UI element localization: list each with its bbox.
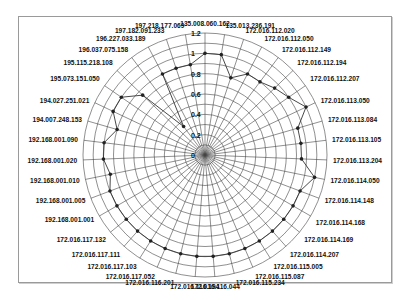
grid-spoke [99,155,205,216]
data-point-marker [109,173,113,177]
grid-spoke [205,155,270,258]
data-point-marker [273,86,277,90]
data-point-marker [220,53,224,57]
category-label: 172.016.117.111 [72,251,121,258]
data-point-marker [296,126,300,130]
radar-chart: 00.20.40.60.811.2 135.008.060.162135.013… [0,0,409,300]
data-point-marker [291,204,295,208]
grid-spoke [157,155,205,267]
radial-tick-label: 1 [191,50,195,57]
radial-tick-label: 1.2 [191,30,201,37]
grid-spoke [205,155,311,216]
data-point-marker [102,157,106,161]
category-label: 172.016.114.207 [290,251,339,258]
data-point-marker [243,247,247,251]
radial-tick-labels: 00.20.40.60.811.2 [191,30,201,159]
category-label: 172.016.112.207 [310,75,359,82]
radial-tick-label: 0.2 [191,132,201,139]
data-point-marker [211,255,215,259]
category-label: 172.016.117.052 [106,273,155,280]
category-label: 192.168.001.005 [36,197,86,204]
category-label: 172.016.114.148 [325,197,374,204]
grid-spoke [95,103,205,155]
data-point-marker [108,189,112,193]
category-label: 172.016.114.168 [316,219,365,226]
data-point-marker [115,128,119,132]
data-point-marker [258,80,262,84]
polar-grid [83,33,327,277]
category-label: 192.168.001.001 [45,216,95,223]
category-label: 172.016.112.050 [264,35,313,42]
data-point-marker [313,176,317,180]
data-point-marker [203,52,207,56]
category-label: 196.227.033.189 [96,35,146,42]
data-point-marker [161,72,165,76]
data-point-marker [299,142,303,146]
radial-tick-label: 0 [191,152,195,159]
data-point-marker [111,110,115,114]
data-point-marker [195,255,199,259]
grid-spoke [140,155,205,258]
category-label: 172.016.116.194 [170,283,219,290]
grid-spoke [205,155,253,267]
data-point-marker [189,63,193,67]
data-point-marker [115,204,119,208]
data-point-marker [179,252,183,256]
grid-spoke [205,155,286,246]
data-point-marker [258,239,262,243]
category-label: 172.016.117.132 [57,236,106,243]
category-label: 196.037.075.158 [79,46,129,53]
data-point-marker [163,247,167,251]
category-label: 172.016.112.194 [297,59,346,66]
category-label: 172.016.113.204 [333,157,382,164]
category-label: 172.016.115.234 [236,279,285,286]
data-point-marker [124,217,128,221]
data-point-marker [271,229,275,233]
category-label: 172.016.113.084 [328,116,377,123]
data-point-marker [149,239,153,243]
grid-spoke [205,39,244,155]
radial-tick-label: 0.6 [191,91,201,98]
data-point-marker [282,217,286,221]
category-label: 192.168.001.090 [28,136,78,143]
data-point-marker [304,105,308,109]
category-label: 194.027.251.021 [40,97,90,104]
grid-spoke [124,155,205,246]
radial-tick-label: 0.4 [191,111,201,118]
data-point-marker [141,93,145,97]
category-label: 172.016.112.020 [246,27,295,34]
data-point-marker [136,229,140,233]
data-point-marker [246,72,250,76]
category-label: 197.218.177.069 [135,22,185,29]
category-label: 192.168.001.010 [30,177,80,184]
grid-spoke [205,57,278,155]
category-label: 192.168.001.020 [28,157,78,164]
category-label: 172.016.117.103 [87,263,136,270]
data-point-marker [229,76,233,80]
category-label: 172.016.114.169 [304,236,353,243]
category-label: 172.016.113.050 [321,97,370,104]
data-point-marker [298,189,302,193]
category-label: 195.115.218.108 [64,59,113,66]
category-label: 172.016.114.050 [330,177,379,184]
category-label: 172.016.112.149 [282,46,331,53]
data-point-marker [182,125,186,129]
radial-tick-label: 0.8 [191,71,201,78]
category-label: 195.073.151.050 [50,75,100,82]
category-label: 135.008.060.162 [180,20,230,27]
category-label: 172.016.115.005 [273,263,322,270]
data-point-marker [228,252,232,256]
data-point-marker [174,66,178,70]
data-point-marker [120,95,124,99]
category-label: 172.016.116.201 [125,279,174,286]
category-label: 172.016.113.105 [332,136,381,143]
category-label: 194.007.248.153 [33,116,83,123]
data-point-marker [102,141,106,145]
data-point-marker [300,157,304,161]
data-point-marker [287,95,291,99]
